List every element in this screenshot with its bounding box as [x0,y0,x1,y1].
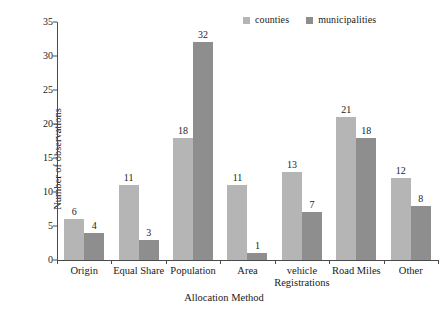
x-axis-category-label-line2: Registrations [274,277,329,289]
bar-group: 111 [220,185,274,260]
bar-municipalities: 8 [411,206,431,260]
x-axis-category-label: Equal Share [113,265,164,277]
bar-counties: 11 [119,185,139,260]
y-axis-tick-mark [53,124,57,125]
bar-counties: 21 [336,117,356,260]
bar-municipalities: 1 [247,253,267,260]
bar-counties: 18 [173,138,193,260]
x-axis-tick-mark [220,260,221,264]
x-axis-tick-mark [329,260,330,264]
x-axis-tick-mark [166,260,167,264]
bar-value-label: 13 [287,160,297,170]
bar-value-label: 8 [418,194,423,204]
bar-value-label: 4 [92,221,97,231]
x-axis-tick-mark [111,260,112,264]
bar-rect [227,185,247,260]
y-axis-tick-label: 10 [43,187,53,197]
y-axis-tick-mark [53,192,57,193]
bar-value-label: 3 [146,228,151,238]
bar-counties: 6 [64,219,84,260]
y-axis-tick-label: 30 [43,51,53,61]
bar-value-label: 1 [255,241,260,251]
bar-rect [302,212,322,260]
bar-value-label: 12 [396,166,406,176]
bar-group: 2118 [329,117,383,260]
bar-group: 137 [275,172,329,260]
bar-municipalities: 4 [84,233,104,260]
y-axis-tick-mark [53,22,57,23]
bar-value-label: 11 [124,173,134,183]
x-axis-tick-mark [438,260,439,264]
bar-rect [84,233,104,260]
bar-chart: counties municipalities Number of observ… [0,0,448,318]
bar-municipalities: 7 [302,212,322,260]
bar-rect [193,42,213,260]
bar-value-label: 6 [72,207,77,217]
bar-value-label: 11 [233,173,243,183]
x-axis-tick-mark [275,260,276,264]
y-axis-tick-mark [53,158,57,159]
bar-municipalities: 3 [139,240,159,260]
bar-municipalities: 32 [193,42,213,260]
bar-counties: 12 [391,178,411,260]
bar-value-label: 18 [361,126,371,136]
bar-group: 128 [384,178,438,260]
y-axis-tick-label: 15 [43,153,53,163]
bar-rect [411,206,431,260]
x-axis-category-label: Road Miles [332,265,381,277]
bar-value-label: 32 [198,30,208,40]
bar-value-label: 7 [309,200,314,210]
x-axis-tick-mark [57,260,58,264]
y-axis-tick-mark [53,90,57,91]
bar-rect [173,138,193,260]
bar-rect [139,240,159,260]
y-axis-tick-label: 20 [43,119,53,129]
bar-value-label: 18 [178,126,188,136]
bar-counties: 11 [227,185,247,260]
bar-rect [119,185,139,260]
x-axis-category-label: Origin [70,265,97,277]
bar-rect [282,172,302,260]
bar-rect [391,178,411,260]
bar-group: 113 [111,185,165,260]
bar-rect [64,219,84,260]
x-axis-line [57,260,438,261]
x-axis-category-label: Population [170,265,216,277]
bar-rect [336,117,356,260]
bar-counties: 13 [282,172,302,260]
bar-rect [247,253,267,260]
x-axis-category-label: Other [399,265,423,277]
y-axis-tick-label: 35 [43,17,53,27]
bar-value-label: 21 [341,105,351,115]
bar-rect [356,138,376,260]
bar-group: 1832 [166,42,220,260]
y-axis-tick-label: 25 [43,85,53,95]
x-axis-tick-mark [384,260,385,264]
x-axis-title: Allocation Method [0,292,448,304]
x-axis-category-label: vehicleRegistrations [274,265,329,289]
bar-group: 64 [57,219,111,260]
bar-municipalities: 18 [356,138,376,260]
x-axis-category-label: Area [237,265,257,277]
y-axis-tick-mark [53,56,57,57]
plot-area: 051015202530356411318321111372118128 [57,22,438,260]
